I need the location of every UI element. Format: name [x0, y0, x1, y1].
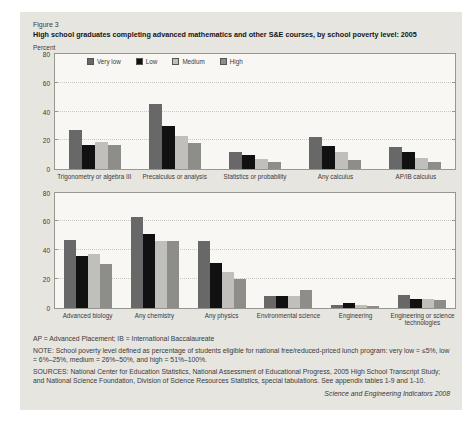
x-axis-labels: Advanced biologyAny chemistryAny physics…	[54, 312, 456, 327]
bar-very-low-advanced-biology	[64, 240, 76, 308]
bar-group-any-physics	[188, 241, 255, 307]
footnotes: AP = Advanced Placement; IB = Internatio…	[33, 334, 456, 398]
bar-group-trigonometry-or-algebra-iii	[55, 130, 135, 169]
y-tick-label: 40	[34, 109, 50, 116]
y-axis-unit-label: Percent	[33, 44, 456, 51]
figure-container: Figure 3 High school graduates completin…	[20, 12, 462, 410]
bar-medium-ap-ib-calculus	[415, 158, 428, 170]
bar-very-low-environmental-science	[264, 296, 276, 308]
bar-high-trigonometry-or-algebra-iii	[108, 145, 121, 169]
bar-very-low-statistics-or-probability	[229, 152, 242, 169]
bar-medium-any-calculus	[335, 152, 348, 169]
chart-gap	[33, 181, 456, 192]
bar-low-environmental-science	[276, 296, 288, 308]
bar-group-ap-ib-calculus	[375, 147, 455, 169]
bar-group-statistics-or-probability	[215, 152, 295, 169]
bar-medium-environmental-science	[288, 296, 300, 308]
bar-high-any-physics	[234, 279, 246, 308]
x-category-label-trigonometry-or-algebra-iii: Trigonometry or algebra III	[54, 173, 134, 181]
x-axis-labels: Trigonometry or algebra IIIPrecalculus o…	[54, 173, 456, 181]
legend-swatch-icon	[220, 58, 227, 65]
bar-low-any-chemistry	[143, 234, 155, 307]
bar-high-engineering	[367, 306, 379, 307]
legend-label: Medium	[182, 58, 204, 65]
bar-low-engineering-or-science-technologies	[410, 299, 422, 308]
bar-medium-trigonometry-or-algebra-iii	[95, 142, 108, 169]
bar-very-low-any-physics	[198, 241, 210, 307]
y-tick-label: 80	[34, 51, 50, 58]
legend-item-very-low: Very low	[87, 58, 121, 65]
legend-swatch-icon	[172, 58, 179, 65]
figure-label: Figure 3	[33, 21, 456, 28]
x-category-label-any-chemistry: Any chemistry	[121, 312, 188, 327]
bar-very-low-engineering	[331, 305, 343, 308]
bar-medium-engineering	[355, 305, 367, 308]
x-category-label-environmental-science: Environmental science	[255, 312, 322, 327]
bar-very-low-trigonometry-or-algebra-iii	[69, 130, 82, 169]
y-tick-label: 40	[34, 247, 50, 254]
bar-high-ap-ib-calculus	[428, 162, 441, 169]
chart-advanced-mathematics: 020406080Very lowLowMediumHighTrigonomet…	[54, 53, 456, 181]
bar-low-trigonometry-or-algebra-iii	[82, 145, 95, 169]
bar-group-precalculus-or-analysis	[135, 104, 215, 169]
bar-low-precalculus-or-analysis	[162, 126, 175, 169]
axis-tick	[452, 82, 455, 83]
y-tick-label: 60	[34, 218, 50, 225]
poverty-level-note: NOTE: School poverty level defined as pe…	[33, 346, 450, 364]
bar-low-engineering	[343, 303, 355, 307]
legend-label: Very low	[97, 58, 121, 65]
x-category-label-engineering-or-science-technologies: Engineering or science technologies	[389, 312, 456, 327]
bar-high-any-calculus	[348, 160, 361, 169]
bar-very-low-any-chemistry	[131, 217, 143, 308]
y-tick-label: 20	[34, 276, 50, 283]
legend-item-low: Low	[136, 58, 158, 65]
bar-very-low-any-calculus	[309, 137, 322, 169]
bar-group-environmental-science	[255, 290, 322, 307]
bar-groups	[55, 104, 455, 169]
bar-group-engineering-or-science-technologies	[388, 295, 455, 308]
x-category-label-any-physics: Any physics	[188, 312, 255, 327]
bar-high-environmental-science	[300, 290, 312, 307]
gridline-60	[55, 82, 455, 83]
bar-high-statistics-or-probability	[268, 162, 281, 169]
bar-very-low-ap-ib-calculus	[389, 147, 402, 169]
bar-low-ap-ib-calculus	[402, 152, 415, 169]
legend-item-medium: Medium	[172, 58, 204, 65]
bar-very-low-precalculus-or-analysis	[149, 104, 162, 169]
bar-group-advanced-biology	[55, 240, 122, 308]
legend-item-high: High	[220, 58, 243, 65]
y-tick-label: 20	[34, 137, 50, 144]
x-category-label-statistics-or-probability: Statistics or probability	[215, 173, 295, 181]
figure-title: High school graduates completing advance…	[33, 30, 456, 39]
bar-high-precalculus-or-analysis	[188, 143, 201, 169]
x-category-label-advanced-biology: Advanced biology	[54, 312, 121, 327]
y-tick-label: 60	[34, 80, 50, 87]
chart-other-se-courses: 020406080Advanced biologyAny chemistryAn…	[54, 192, 456, 327]
bar-high-advanced-biology	[100, 264, 112, 307]
bar-high-engineering-or-science-technologies	[434, 300, 446, 307]
bar-low-any-physics	[210, 263, 222, 308]
legend-swatch-icon	[87, 58, 94, 65]
y-tick-label: 0	[34, 305, 50, 312]
abbreviation-note: AP = Advanced Placement; IB = Internatio…	[33, 334, 450, 343]
bar-medium-any-physics	[222, 272, 234, 308]
bar-group-any-calculus	[295, 137, 375, 169]
x-category-label-precalculus-or-analysis: Precalculus or analysis	[134, 173, 214, 181]
y-tick-label: 80	[34, 190, 50, 197]
x-category-label-any-calculus: Any calculus	[295, 173, 375, 181]
bar-groups	[55, 217, 455, 308]
bar-low-advanced-biology	[76, 256, 88, 308]
bar-medium-precalculus-or-analysis	[175, 136, 188, 169]
bar-medium-statistics-or-probability	[255, 159, 268, 169]
bar-high-any-chemistry	[167, 241, 179, 307]
x-category-label-ap-ib-calculus: AP/IB calculus	[376, 173, 456, 181]
bar-low-any-calculus	[322, 146, 335, 169]
bar-group-engineering	[322, 303, 389, 307]
y-tick-label: 0	[34, 166, 50, 173]
bar-medium-engineering-or-science-technologies	[422, 299, 434, 308]
legend: Very lowLowMediumHigh	[87, 58, 243, 65]
axis-tick	[55, 82, 58, 83]
bar-group-any-chemistry	[122, 217, 189, 308]
plot-area: 020406080	[54, 192, 456, 309]
plot-area: 020406080Very lowLowMediumHigh	[54, 53, 456, 170]
